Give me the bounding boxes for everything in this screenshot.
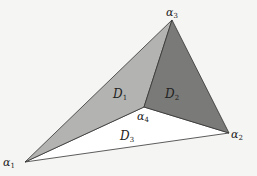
vertex-label-a1: α1 — [3, 156, 15, 170]
vertex-label-a2: α2 — [231, 128, 243, 142]
vertex-label-a3: α3 — [166, 6, 178, 20]
diagram-canvas: α1α2α3α4 D1D2D3 — [0, 0, 257, 176]
triangulation-diagram: α1α2α3α4 D1D2D3 — [0, 0, 257, 176]
